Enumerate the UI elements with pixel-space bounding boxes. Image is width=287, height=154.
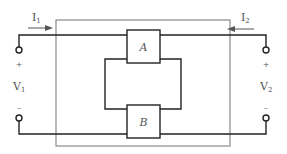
- port1-plus-sign: +: [16, 60, 23, 69]
- two-port-diagram: A B I1 I2 + V1 – + V2 –: [0, 0, 287, 154]
- i2-label: I2: [241, 11, 250, 25]
- i1-arrow-icon: [28, 25, 53, 31]
- port2-minus-sign: –: [264, 103, 268, 112]
- port1-plus-terminal: [16, 47, 22, 53]
- port2-minus-terminal: [263, 115, 269, 121]
- block-b-label: B: [138, 116, 147, 129]
- port2-plus-sign: +: [263, 60, 270, 69]
- v1-label: V1: [12, 80, 25, 94]
- top-right-wire: [160, 35, 266, 47]
- bottom-right-wire: [160, 121, 266, 134]
- port2-plus-terminal: [263, 47, 269, 53]
- v2-label: V2: [259, 80, 272, 94]
- bottom-left-wire: [19, 121, 127, 134]
- i1-label: I1: [32, 11, 41, 25]
- i2-arrow-icon: [0, 0, 254, 32]
- inner-left-wire: [105, 59, 127, 109]
- block-a-label: A: [139, 41, 148, 54]
- port1-minus-sign: –: [17, 103, 21, 112]
- inner-right-wire: [160, 59, 181, 109]
- port1-minus-terminal: [16, 115, 22, 121]
- top-left-wire: [19, 35, 127, 47]
